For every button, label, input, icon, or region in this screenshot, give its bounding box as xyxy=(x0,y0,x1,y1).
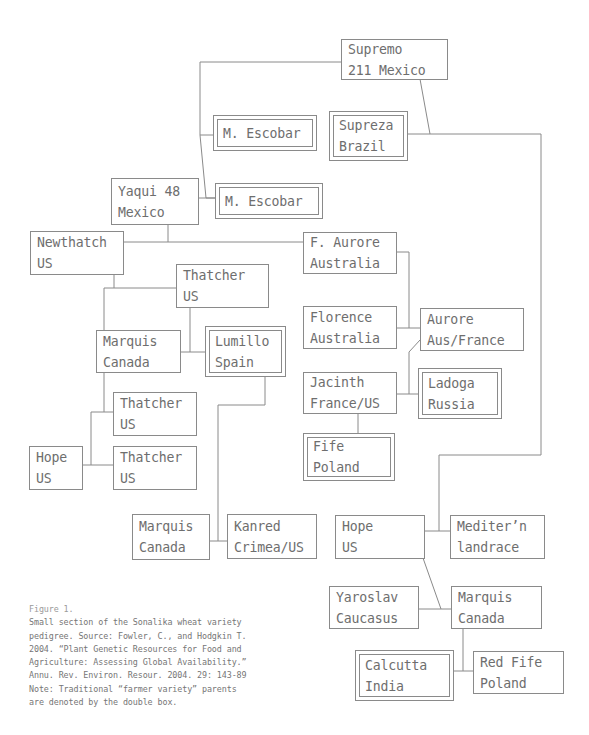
node-lumillo: Lumillo Spain xyxy=(205,326,286,377)
variety-origin: Poland xyxy=(480,673,563,694)
variety-origin: Canada xyxy=(458,608,541,629)
node-m-escobar-1: M. Escobar xyxy=(213,115,317,151)
variety-origin: Spain xyxy=(215,352,281,373)
variety-origin: US xyxy=(183,286,268,307)
variety-name: Hope xyxy=(36,447,82,468)
caption-line: 2004. “Plant Genetic Resources for Food … xyxy=(29,643,299,656)
node-calcutta: Calcutta India xyxy=(355,650,454,701)
variety-origin: France/US xyxy=(310,393,396,414)
node-hope-left: Hope US xyxy=(29,446,83,490)
variety-name: Yaroslav xyxy=(336,587,418,608)
variety-origin: Poland xyxy=(313,457,390,478)
variety-name: Calcutta xyxy=(365,655,449,676)
variety-name: Mediter’n xyxy=(457,516,544,537)
node-kanred: Kanred Crimea/US xyxy=(227,514,317,559)
variety-name: Kanred xyxy=(234,516,316,537)
node-supremo: Supremo 211 Mexico xyxy=(341,39,448,80)
caption-line: Note: Traditional “farmer variety” paren… xyxy=(29,683,299,696)
variety-origin: US xyxy=(36,468,82,489)
node-red-fife: Red Fife Poland xyxy=(473,651,564,694)
node-jacinth: Jacinth France/US xyxy=(303,372,397,414)
node-aurore: Aurore Aus/France xyxy=(420,308,524,351)
variety-name: F. Aurore xyxy=(310,232,396,253)
variety-name: M. Escobar xyxy=(223,123,312,144)
caption-line: Agriculture: Assessing Global Availabili… xyxy=(29,656,299,669)
variety-name: Ladoga xyxy=(428,373,497,394)
node-ladoga: Ladoga Russia xyxy=(418,368,502,419)
node-supreza: Supreza Brazil xyxy=(329,111,408,161)
variety-name: Newthatch xyxy=(37,232,123,253)
node-thatcher-low: Thatcher US xyxy=(113,446,197,490)
caption-line: Annu. Rev. Environ. Resour. 2004. 29: 14… xyxy=(29,669,299,682)
variety-origin: Mexico xyxy=(118,202,198,223)
variety-name: Red Fife xyxy=(480,652,563,673)
variety-origin: Canada xyxy=(103,352,180,373)
variety-name: Marquis xyxy=(139,516,209,537)
caption-line: Small section of the Sonalika wheat vari… xyxy=(29,616,299,629)
variety-name: Supreza xyxy=(339,115,403,136)
node-mediterranean: Mediter’n landrace xyxy=(450,515,545,559)
figure-title: Figure 1. xyxy=(29,603,299,616)
node-marquis-lower: Marquis Canada xyxy=(132,514,210,560)
variety-name: M. Escobar xyxy=(225,191,318,212)
variety-origin: Canada xyxy=(139,537,209,558)
node-newthatch: Newthatch US xyxy=(30,231,124,275)
variety-origin: Caucasus xyxy=(336,608,418,629)
node-hope-right: Hope US xyxy=(335,515,425,559)
variety-origin: India xyxy=(365,676,449,697)
variety-name: Thatcher xyxy=(120,447,196,468)
variety-name: Thatcher xyxy=(120,393,196,414)
variety-name: Fife xyxy=(313,436,390,457)
caption-line: are denoted by the double box. xyxy=(29,696,299,709)
caption-line: pedigree. Source: Fowler, C., and Hodgki… xyxy=(29,630,299,643)
node-m-escobar-2: M. Escobar xyxy=(215,183,323,219)
variety-name: Hope xyxy=(342,516,424,537)
node-thatcher-mid: Thatcher US xyxy=(113,392,197,436)
variety-name: Supremo xyxy=(348,39,447,60)
variety-origin: US xyxy=(120,468,196,489)
variety-origin: Crimea/US xyxy=(234,537,316,558)
variety-origin: US xyxy=(342,537,424,558)
variety-name: Yaqui 48 xyxy=(118,181,198,202)
variety-name: Marquis xyxy=(103,331,180,352)
variety-name: Florence xyxy=(310,307,396,328)
variety-origin: Russia xyxy=(428,394,497,415)
variety-origin: US xyxy=(37,253,123,274)
node-f-aurore: F. Aurore Australia xyxy=(303,232,397,274)
figure-caption: Figure 1. Small section of the Sonalika … xyxy=(29,603,299,709)
variety-origin: 211 Mexico xyxy=(348,60,447,81)
variety-origin: US xyxy=(120,414,196,435)
node-yaqui: Yaqui 48 Mexico xyxy=(111,178,199,225)
node-thatcher-top: Thatcher US xyxy=(176,264,269,308)
variety-origin: landrace xyxy=(457,537,544,558)
node-yaroslav: Yaroslav Caucasus xyxy=(329,586,419,629)
variety-name: Lumillo xyxy=(215,331,281,352)
node-marquis-right: Marquis Canada xyxy=(451,586,542,629)
node-florence: Florence Australia xyxy=(303,306,397,349)
variety-origin: Aus/France xyxy=(427,330,523,351)
variety-origin: Australia xyxy=(310,253,396,274)
variety-origin: Australia xyxy=(310,328,396,349)
node-marquis-left: Marquis Canada xyxy=(96,330,181,373)
variety-origin: Brazil xyxy=(339,136,403,157)
variety-name: Aurore xyxy=(427,309,523,330)
variety-name: Thatcher xyxy=(183,265,268,286)
node-fife: Fife Poland xyxy=(303,433,395,481)
variety-name: Jacinth xyxy=(310,372,396,393)
variety-name: Marquis xyxy=(458,587,541,608)
